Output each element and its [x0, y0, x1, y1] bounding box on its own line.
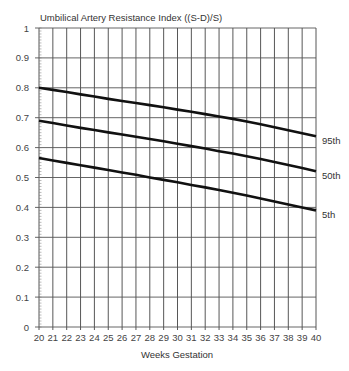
series-labels: 95th50th5th	[322, 135, 341, 220]
x-tick-label: 37	[269, 332, 280, 343]
chart-title: Umbilical Artery Resistance Index ((S-D)…	[40, 12, 222, 23]
y-tick-label: 1	[24, 23, 29, 34]
x-tick-label: 28	[145, 332, 156, 343]
y-tick-label: 0.4	[16, 202, 29, 213]
x-tick-label: 38	[283, 332, 294, 343]
x-tick-label: 21	[48, 332, 59, 343]
x-tick-label: 26	[117, 332, 128, 343]
x-tick-label: 40	[311, 332, 322, 343]
y-tick-label: 0.1	[16, 292, 29, 303]
y-minor-ticks	[39, 28, 42, 327]
y-tick-label: 0.6	[16, 142, 29, 153]
line-chart: Umbilical Artery Resistance Index ((S-D)…	[0, 0, 349, 371]
x-tick-label: 34	[228, 332, 239, 343]
x-tick-label: 31	[186, 332, 197, 343]
x-axis-ticks: 2021222324252627282930313233343536373839…	[34, 332, 322, 343]
y-tick-label: 0	[24, 322, 29, 333]
y-tick-label: 0.2	[16, 262, 29, 273]
x-tick-label: 20	[34, 332, 45, 343]
y-tick-label: 0.3	[16, 232, 29, 243]
series-label-95th: 95th	[322, 135, 341, 146]
y-axis-ticks: 00.10.20.30.40.50.60.70.80.91	[16, 23, 29, 333]
x-tick-label: 25	[103, 332, 114, 343]
x-tick-label: 33	[214, 332, 225, 343]
x-tick-label: 27	[131, 332, 142, 343]
series-label-50th: 50th	[322, 170, 341, 181]
x-tick-label: 29	[158, 332, 169, 343]
x-tick-label: 30	[172, 332, 183, 343]
x-tick-label: 24	[89, 332, 100, 343]
x-tick-label: 32	[200, 332, 211, 343]
x-axis-label: Weeks Gestation	[141, 349, 213, 360]
grid	[35, 28, 316, 330]
x-tick-label: 23	[75, 332, 86, 343]
x-tick-label: 36	[255, 332, 266, 343]
x-tick-label: 35	[241, 332, 252, 343]
series-label-5th: 5th	[322, 209, 335, 220]
y-tick-label: 0.5	[16, 172, 29, 183]
x-tick-label: 39	[297, 332, 308, 343]
y-tick-label: 0.8	[16, 82, 29, 93]
y-tick-label: 0.9	[16, 52, 29, 63]
x-tick-label: 22	[61, 332, 72, 343]
y-tick-label: 0.7	[16, 112, 29, 123]
